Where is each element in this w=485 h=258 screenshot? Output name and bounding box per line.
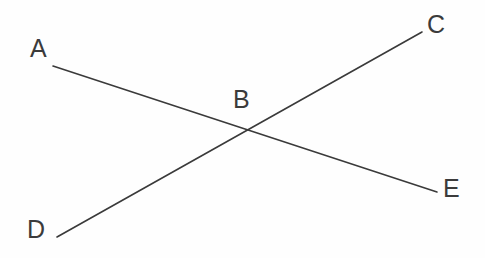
- vertex-label-d: D: [27, 217, 45, 242]
- line-segment-dc: [57, 32, 422, 237]
- vertex-label-c: C: [427, 12, 445, 37]
- diagram-canvas: [0, 0, 485, 258]
- geometry-diagram: A B C D E: [0, 0, 485, 258]
- vertex-label-b: B: [233, 87, 250, 112]
- vertex-label-a: A: [30, 36, 47, 61]
- vertex-label-e: E: [443, 176, 460, 201]
